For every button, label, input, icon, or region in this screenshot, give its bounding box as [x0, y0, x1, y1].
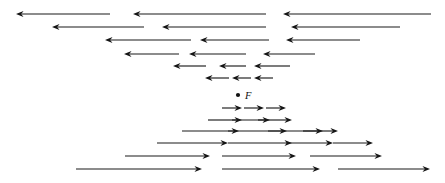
leftward-arrows-12: [173, 63, 206, 69]
rightward-arrows-17: [76, 166, 202, 172]
rightward-arrows-16: [310, 153, 382, 159]
leftward-arrows-3: [52, 24, 144, 30]
leftward-arrow-group: [16, 11, 431, 81]
rightward-arrow-group: [76, 105, 430, 172]
leftward-arrows-14: [254, 63, 290, 69]
leftward-arrows-1: [133, 11, 266, 17]
leftward-arrows-15: [205, 75, 229, 81]
rightward-arrows-12: [286, 140, 333, 146]
rightward-arrows-11: [228, 140, 292, 146]
center-point-label: F: [244, 90, 252, 101]
leftward-arrows-13: [219, 63, 246, 69]
rightward-arrows-2: [266, 105, 286, 111]
rightward-arrows-18: [222, 166, 320, 172]
rightward-arrows-10: [157, 140, 228, 146]
leftward-arrows-7: [200, 37, 269, 43]
vector-field-canvas: F: [0, 0, 445, 183]
leftward-arrows-16: [232, 75, 251, 81]
rightward-arrows-5: [258, 117, 292, 123]
leftward-arrows-17: [254, 75, 273, 81]
leftward-arrows-6: [105, 37, 191, 43]
center-point: [236, 93, 240, 97]
leftward-arrows-8: [286, 37, 360, 43]
rightward-arrows-14: [125, 153, 210, 159]
leftward-arrows-9: [124, 51, 179, 57]
annotation-group: F: [236, 90, 252, 101]
leftward-arrows-5: [291, 24, 400, 30]
vector-field-figure: F: [0, 0, 445, 183]
rightward-arrows-0: [222, 105, 242, 111]
rightward-arrows-9: [303, 128, 338, 134]
leftward-arrows-4: [162, 24, 266, 30]
rightward-arrows-1: [244, 105, 264, 111]
rightward-arrows-19: [338, 166, 430, 172]
leftward-arrows-2: [283, 11, 431, 17]
rightward-arrows-15: [222, 153, 296, 159]
rightward-arrows-13: [333, 140, 373, 146]
leftward-arrows-0: [16, 11, 110, 17]
leftward-arrows-10: [189, 51, 246, 57]
leftward-arrows-11: [263, 51, 315, 57]
